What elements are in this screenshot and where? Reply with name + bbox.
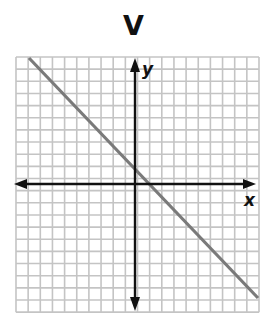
y-axis-down-arrow-icon <box>130 297 140 311</box>
x-axis-right-arrow-icon <box>243 179 256 189</box>
y-axis-up-arrow-icon <box>130 58 140 72</box>
graph: x y <box>0 0 267 326</box>
x-axis-label: x <box>243 190 256 210</box>
y-axis-label: y <box>142 59 154 79</box>
